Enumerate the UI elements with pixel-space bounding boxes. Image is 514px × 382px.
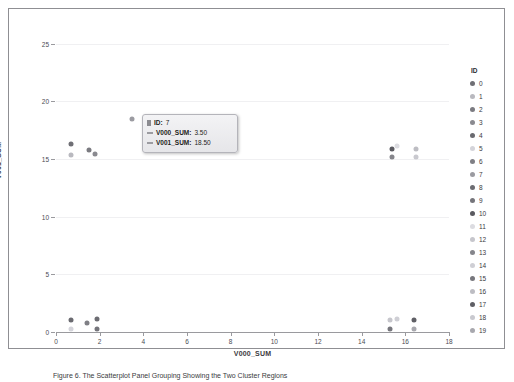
gridline bbox=[56, 101, 449, 102]
legend: ID 012345678910111213141516171819 bbox=[469, 67, 509, 337]
legend-item[interactable]: 18 bbox=[469, 311, 509, 324]
tooltip-v000-value: 3.50 bbox=[194, 128, 207, 138]
y-axis-tick-label: 20 bbox=[31, 98, 49, 105]
legend-item-label: 16 bbox=[479, 285, 486, 298]
x-axis-tick bbox=[274, 332, 275, 336]
y-axis-title: V001_SUM bbox=[0, 142, 2, 179]
legend-item-label: 14 bbox=[479, 259, 486, 272]
scatter-point[interactable] bbox=[394, 317, 399, 322]
y-axis-tick-label: 5 bbox=[31, 271, 49, 278]
scatter-point[interactable] bbox=[412, 326, 417, 331]
legend-swatch-icon bbox=[470, 224, 475, 229]
legend-item[interactable]: 3 bbox=[469, 116, 509, 129]
scatter-point[interactable] bbox=[95, 317, 100, 322]
y-axis-tick-label: 0 bbox=[31, 329, 49, 336]
scatter-point[interactable] bbox=[388, 326, 393, 331]
y-axis-tick bbox=[51, 217, 55, 218]
legend-swatch-icon bbox=[470, 237, 475, 242]
x-axis-tick bbox=[449, 332, 450, 336]
y-axis-tick-label: 10 bbox=[31, 213, 49, 220]
legend-swatch-icon bbox=[470, 198, 475, 203]
legend-item[interactable]: 0 bbox=[469, 77, 509, 90]
legend-item-label: 19 bbox=[479, 324, 486, 337]
legend-item[interactable]: 8 bbox=[469, 181, 509, 194]
y-axis-tick-label: 25 bbox=[31, 40, 49, 47]
legend-swatch-icon bbox=[470, 133, 475, 138]
scatter-point[interactable] bbox=[69, 318, 74, 323]
x-axis-tick-label: 10 bbox=[271, 338, 278, 345]
x-axis-tick bbox=[143, 332, 144, 336]
scatter-point[interactable] bbox=[86, 147, 91, 152]
legend-swatch-icon bbox=[470, 172, 475, 177]
y-axis-tick-label: 15 bbox=[31, 155, 49, 162]
x-axis-tick-label: 0 bbox=[54, 338, 58, 345]
scatter-point[interactable] bbox=[130, 116, 135, 121]
legend-item[interactable]: 19 bbox=[469, 324, 509, 337]
tooltip-v000-key: V000_SUM: bbox=[156, 128, 191, 138]
y-axis-tick bbox=[51, 332, 55, 333]
legend-item[interactable]: 14 bbox=[469, 259, 509, 272]
figure-caption: Figure 6. The Scatterplot Panel Grouping… bbox=[53, 371, 483, 382]
legend-item[interactable]: 7 bbox=[469, 168, 509, 181]
legend-item-label: 1 bbox=[479, 90, 483, 103]
x-axis-tick bbox=[187, 332, 188, 336]
x-axis-tick-label: 14 bbox=[358, 338, 365, 345]
legend-swatch-icon bbox=[470, 159, 475, 164]
x-axis-tick-label: 12 bbox=[314, 338, 321, 345]
legend-item-label: 12 bbox=[479, 233, 486, 246]
legend-item[interactable]: 11 bbox=[469, 220, 509, 233]
legend-item[interactable]: 10 bbox=[469, 207, 509, 220]
tooltip-row-v000: V000_SUM: 3.50 bbox=[147, 128, 233, 138]
x-axis-tick bbox=[56, 332, 57, 336]
scatter-point[interactable] bbox=[388, 318, 393, 323]
legend-item-label: 0 bbox=[479, 77, 483, 90]
legend-item[interactable]: 4 bbox=[469, 129, 509, 142]
legend-item-label: 10 bbox=[479, 207, 486, 220]
scatter-point[interactable] bbox=[394, 144, 399, 149]
legend-swatch-icon bbox=[470, 276, 475, 281]
y-axis-tick bbox=[51, 274, 55, 275]
legend-item[interactable]: 5 bbox=[469, 142, 509, 155]
point-tooltip: ID: 7 V000_SUM: 3.50 V001_SUM: 18.50 bbox=[142, 114, 238, 153]
scatter-point[interactable] bbox=[84, 320, 89, 325]
legend-item[interactable]: 12 bbox=[469, 233, 509, 246]
legend-item[interactable]: 1 bbox=[469, 90, 509, 103]
scatter-point[interactable] bbox=[390, 154, 395, 159]
gridline bbox=[56, 274, 449, 275]
x-axis-tick bbox=[405, 332, 406, 336]
legend-item[interactable]: 16 bbox=[469, 285, 509, 298]
line-swatch-icon bbox=[147, 132, 153, 134]
x-axis-tick-label: 8 bbox=[229, 338, 233, 345]
x-axis-tick bbox=[318, 332, 319, 336]
scatter-point[interactable] bbox=[69, 326, 74, 331]
legend-item-label: 15 bbox=[479, 272, 486, 285]
y-axis-tick bbox=[51, 101, 55, 102]
x-axis-tick-label: 6 bbox=[185, 338, 189, 345]
y-axis-tick bbox=[51, 44, 55, 45]
scatter-point[interactable] bbox=[93, 152, 98, 157]
scatter-point[interactable] bbox=[69, 141, 74, 146]
scatter-point[interactable] bbox=[69, 153, 74, 158]
scatter-point[interactable] bbox=[414, 154, 419, 159]
legend-swatch-icon bbox=[470, 120, 475, 125]
legend-item-label: 7 bbox=[479, 168, 483, 181]
bar-swatch-icon bbox=[147, 120, 151, 126]
scatter-point[interactable] bbox=[95, 326, 100, 331]
legend-items: 012345678910111213141516171819 bbox=[469, 77, 509, 337]
legend-item[interactable]: 17 bbox=[469, 298, 509, 311]
y-axis-tick bbox=[51, 159, 55, 160]
legend-item-label: 9 bbox=[479, 194, 483, 207]
tooltip-v001-value: 18.50 bbox=[194, 138, 210, 148]
legend-item[interactable]: 15 bbox=[469, 272, 509, 285]
scatter-point[interactable] bbox=[412, 318, 417, 323]
legend-item[interactable]: 9 bbox=[469, 194, 509, 207]
legend-swatch-icon bbox=[470, 94, 475, 99]
legend-item[interactable]: 6 bbox=[469, 155, 509, 168]
legend-item[interactable]: 2 bbox=[469, 103, 509, 116]
plot-area[interactable] bbox=[56, 32, 449, 332]
gridline bbox=[56, 217, 449, 218]
legend-item[interactable]: 13 bbox=[469, 246, 509, 259]
legend-swatch-icon bbox=[470, 107, 475, 112]
scatter-point[interactable] bbox=[414, 146, 419, 151]
legend-item-label: 4 bbox=[479, 129, 483, 142]
